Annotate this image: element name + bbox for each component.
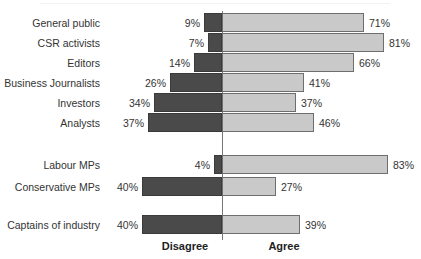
legend-label-agree: Agree <box>234 240 334 252</box>
bar-disagree <box>142 177 222 196</box>
value-label-agree: 41% <box>309 77 369 89</box>
bar-disagree <box>148 113 222 132</box>
value-label-agree: 37% <box>301 97 361 109</box>
bar-agree <box>222 13 364 32</box>
value-label-agree: 71% <box>369 17 421 29</box>
scan-artifact-line <box>40 3 390 4</box>
value-label-disagree: 37% <box>84 117 144 129</box>
category-label: General public <box>0 17 100 29</box>
value-label-disagree: 14% <box>130 57 190 69</box>
value-label-agree: 27% <box>281 181 341 193</box>
bar-disagree <box>194 53 222 72</box>
category-label: Business Journalists <box>0 77 100 89</box>
value-label-disagree: 9% <box>140 17 200 29</box>
bar-agree <box>222 33 384 52</box>
category-label: CSR activists <box>0 37 100 49</box>
value-label-disagree: 34% <box>90 97 150 109</box>
bar-disagree <box>154 93 222 112</box>
bar-agree <box>222 93 296 112</box>
bar-disagree <box>208 33 222 52</box>
bar-disagree <box>170 73 222 92</box>
value-label-disagree: 4% <box>150 159 210 171</box>
bar-agree <box>222 73 304 92</box>
bar-disagree <box>204 13 222 32</box>
category-label: Editors <box>0 57 100 69</box>
bar-agree <box>222 155 388 174</box>
value-label-disagree: 40% <box>78 181 138 193</box>
bar-agree <box>222 113 314 132</box>
bar-agree <box>222 177 276 196</box>
bar-disagree <box>142 215 222 234</box>
value-label-agree: 83% <box>393 159 421 171</box>
value-label-disagree: 26% <box>106 77 166 89</box>
value-label-agree: 66% <box>359 57 419 69</box>
value-label-agree: 46% <box>319 117 379 129</box>
legend-label-disagree: Disagree <box>135 240 235 252</box>
value-label-disagree: 7% <box>144 37 204 49</box>
value-label-disagree: 40% <box>78 219 138 231</box>
bar-agree <box>222 53 354 72</box>
category-label: Labour MPs <box>0 159 100 171</box>
category-label: Investors <box>0 97 100 109</box>
bar-agree <box>222 215 300 234</box>
value-label-agree: 39% <box>305 219 365 231</box>
bar-disagree <box>214 155 222 174</box>
diverging-bar-chart: General public9%71%CSR activists7%81%Edi… <box>0 0 421 259</box>
value-label-agree: 81% <box>389 37 421 49</box>
